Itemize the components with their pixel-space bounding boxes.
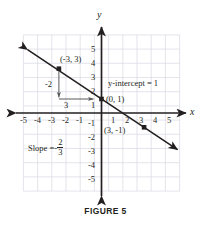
- x-tick--3: -3: [48, 116, 55, 125]
- x-tick-2: 2: [125, 116, 129, 125]
- x-tick-4: 4: [153, 116, 157, 125]
- point-marker-0-1: [99, 97, 104, 102]
- point-marker-neg3-3: [57, 66, 62, 71]
- x-tick--1: -1: [76, 116, 83, 125]
- slope-note-text: Slope =: [28, 143, 54, 153]
- y-axis-label: y: [97, 10, 101, 20]
- slope-fraction: 23: [57, 138, 63, 156]
- y-tick-5: 5: [91, 45, 95, 54]
- slope-denominator: 3: [57, 148, 63, 157]
- y-tick--1: -1: [88, 119, 95, 128]
- figure-container: y x -5 -4 -3 -2 -1 1 2 3 4 5 5 4 3 2 1 -…: [0, 0, 211, 230]
- y-tick--2: -2: [88, 133, 95, 142]
- x-tick-3: 3: [139, 116, 143, 125]
- x-axis-label: x: [190, 107, 194, 117]
- y-tick--5: -5: [88, 175, 95, 184]
- run-label: 3: [64, 101, 68, 110]
- point-label-neg3-3: (-3, 3): [60, 55, 81, 64]
- x-tick--5: -5: [20, 116, 27, 125]
- x-tick-5: 5: [167, 116, 171, 125]
- y-intercept-note: y-intercept = 1: [108, 79, 158, 88]
- point-label-0-1: (0, 1): [106, 95, 124, 104]
- y-tick-2: 2: [91, 87, 95, 96]
- rise-label: -2: [45, 80, 52, 89]
- point-label-3-neg1: (3, -1): [104, 126, 125, 135]
- figure-caption: FIGURE 5: [0, 206, 211, 216]
- y-tick-1: 1: [91, 101, 95, 110]
- x-tick-1: 1: [111, 116, 115, 125]
- x-tick--4: -4: [34, 116, 41, 125]
- y-tick-4: 4: [91, 59, 95, 68]
- coordinate-plane-graph: [0, 0, 211, 230]
- y-tick--4: -4: [88, 161, 95, 170]
- y-tick--3: -3: [88, 147, 95, 156]
- y-tick-3: 3: [91, 73, 95, 82]
- point-marker-3-neg1: [142, 125, 147, 130]
- slope-note: Slope =-23: [28, 138, 63, 156]
- x-tick--2: -2: [62, 116, 69, 125]
